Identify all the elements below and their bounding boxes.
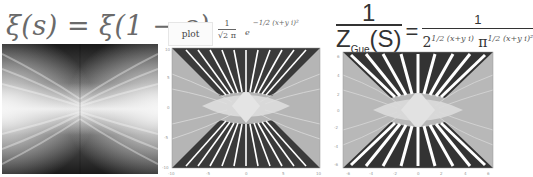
svg-text:6: 6 [487, 171, 490, 176]
svg-text:0: 0 [417, 171, 420, 176]
lhs-numerator: 1 [362, 2, 375, 24]
svg-text:-5: -5 [164, 135, 168, 140]
panel2-plot: 1050-5-10 -10-50510 [162, 44, 332, 177]
svg-text:10: 10 [165, 47, 171, 52]
panel2-formula: 1 √2 π e−1/2 (x+y i)² [218, 19, 299, 41]
svg-text:10: 10 [316, 171, 322, 176]
svg-text:-5: -5 [206, 171, 210, 176]
rhs-numerator: 1 [474, 12, 481, 28]
panel1-plot [2, 44, 158, 174]
rhs-exp1: 1/2 (x+y i) [431, 34, 474, 43]
formula-base: e [245, 28, 250, 37]
lhs-arg: (S) [370, 25, 402, 52]
svg-text:4: 4 [337, 73, 340, 78]
svg-text:0: 0 [167, 105, 170, 110]
svg-text:-2: -2 [393, 171, 397, 176]
svg-text:2: 2 [440, 171, 443, 176]
rhs-base2: π [478, 34, 487, 50]
svg-text:-6: -6 [334, 162, 338, 167]
svg-text:-10: -10 [162, 165, 169, 170]
svg-text:5: 5 [167, 75, 170, 80]
svg-text:-6: -6 [346, 171, 350, 176]
rhs-exp2: 1/2 (x+y i)² [488, 34, 533, 43]
svg-text:-2: -2 [334, 125, 338, 130]
svg-text:-4: -4 [369, 171, 373, 176]
plot-button[interactable]: plot [168, 22, 213, 46]
formula-denominator: √2 π [218, 30, 236, 41]
svg-text:0: 0 [245, 171, 248, 176]
svg-text:6: 6 [337, 54, 340, 59]
svg-text:0: 0 [337, 108, 340, 113]
panel3-plot: 6420-2-4-6 -6-4-20246 [333, 50, 501, 177]
lhs-denominator: Z [336, 25, 351, 52]
equals-sign: = [406, 19, 419, 45]
svg-text:-4: -4 [334, 144, 338, 149]
formula-exponent: −1/2 (x+y i)² [253, 19, 299, 27]
formula-numerator: 1 [224, 19, 229, 29]
svg-text:4: 4 [464, 171, 467, 176]
svg-text:5: 5 [282, 171, 285, 176]
svg-text:-10: -10 [168, 171, 175, 176]
svg-text:2: 2 [337, 92, 340, 97]
